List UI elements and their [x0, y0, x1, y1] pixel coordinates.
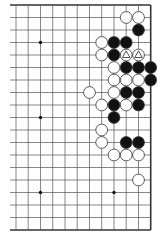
- stones-layer: [84, 12, 157, 186]
- white-stone: [120, 99, 132, 111]
- white-stone: [108, 149, 120, 161]
- black-stone: [133, 99, 145, 111]
- white-stone: [96, 49, 108, 61]
- white-stone: [133, 174, 145, 186]
- star-point: [39, 116, 42, 119]
- black-stone: [145, 62, 157, 74]
- white-stone: [120, 49, 132, 61]
- black-stone: [120, 62, 132, 74]
- black-stone: [133, 87, 145, 99]
- white-stone: [120, 74, 132, 86]
- star-point: [112, 191, 115, 194]
- black-stone: [133, 62, 145, 74]
- white-stone: [96, 99, 108, 111]
- black-stone: [108, 49, 120, 61]
- white-stone: [108, 74, 120, 86]
- black-stone: [108, 37, 120, 49]
- white-stone: [96, 37, 108, 49]
- star-point: [39, 191, 42, 194]
- black-stone: [133, 24, 145, 36]
- white-stone: [108, 87, 120, 99]
- white-stone: [108, 62, 120, 74]
- white-stone: [120, 149, 132, 161]
- white-stone: [120, 12, 132, 24]
- star-point: [39, 41, 42, 44]
- white-stone: [96, 137, 108, 149]
- black-stone: [108, 99, 120, 111]
- white-stone: [133, 149, 145, 161]
- black-stone: [120, 137, 132, 149]
- white-stone: [133, 74, 145, 86]
- black-stone: [120, 37, 132, 49]
- black-stone: [108, 112, 120, 124]
- white-stone: [133, 12, 145, 24]
- black-stone: [120, 87, 132, 99]
- black-stone: [133, 137, 145, 149]
- white-stone: [84, 87, 96, 99]
- white-stone: [133, 49, 145, 61]
- white-stone: [96, 124, 108, 136]
- go-board: [0, 0, 162, 233]
- black-stone: [145, 74, 157, 86]
